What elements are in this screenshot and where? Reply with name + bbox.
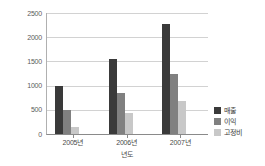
- bar: [109, 59, 117, 135]
- y-axis-tick-labels: 2500 2000 1500 1000 500 0: [0, 0, 42, 166]
- bar: [162, 24, 170, 134]
- legend-swatch-icon: [214, 118, 221, 125]
- legend-swatch-icon: [214, 107, 221, 114]
- bar: [71, 127, 79, 134]
- y-tick-label: 0: [0, 131, 42, 138]
- x-tick-label: 2007년: [153, 139, 207, 147]
- bar: [55, 86, 63, 134]
- chart-legend: 매출이익고정비: [214, 105, 264, 138]
- y-tick-label: 1000: [0, 82, 42, 89]
- legend-item: 매출: [214, 105, 264, 116]
- bar-group: [162, 13, 186, 134]
- bar-group: [109, 13, 133, 134]
- bar: [178, 101, 186, 134]
- x-tick: [127, 134, 128, 138]
- x-tick: [180, 134, 181, 138]
- legend-swatch-icon: [214, 129, 221, 136]
- bar: [125, 113, 133, 134]
- x-tick-label: 2006년: [100, 139, 154, 147]
- legend-label: 이익: [224, 118, 236, 126]
- x-axis-title: 년도: [46, 151, 207, 159]
- y-tick-label: 2500: [0, 10, 42, 17]
- legend-label: 고정비: [224, 129, 241, 137]
- legend-item: 이익: [214, 116, 264, 127]
- x-tick: [73, 134, 74, 138]
- bars-layer: [47, 13, 207, 134]
- bar: [63, 110, 71, 134]
- bar-group: [55, 13, 79, 134]
- y-tick-label: 2000: [0, 34, 42, 41]
- bar: [117, 93, 125, 134]
- legend-label: 매출: [224, 107, 236, 115]
- bar: [170, 74, 178, 135]
- x-tick-label: 2005년: [46, 139, 100, 147]
- y-tick-label: 1500: [0, 58, 42, 65]
- legend-item: 고정비: [214, 127, 264, 138]
- bar-chart: 2500 2000 1500 1000 500 0 2005년2006년2007…: [0, 0, 265, 166]
- y-tick-label: 500: [0, 106, 42, 113]
